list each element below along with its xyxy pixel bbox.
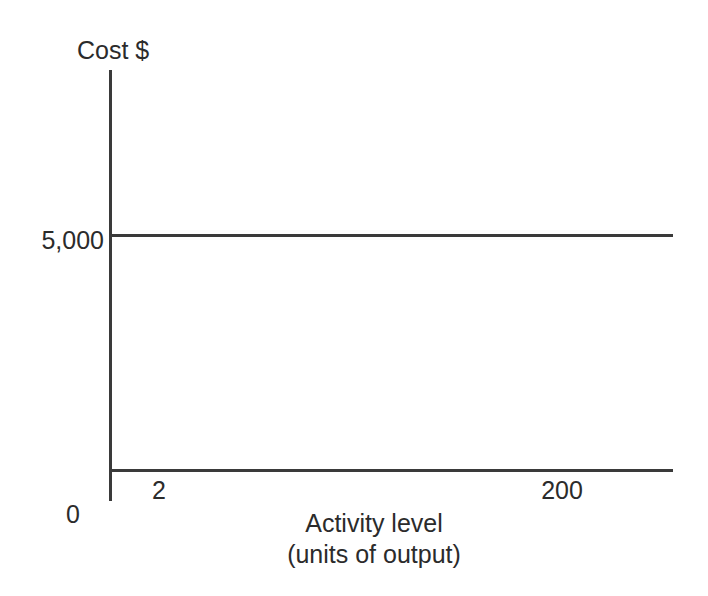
x-tick-label-2: 2: [152, 476, 166, 504]
x-axis-title-line2: (units of output): [40, 539, 708, 570]
y-axis-line: [109, 70, 112, 501]
y-tick-group: 5,000: [0, 226, 104, 254]
chart-canvas: Cost $ 5,000 0 2 200 Activity level (uni…: [0, 0, 708, 596]
x-tick-label-200: 200: [541, 476, 583, 504]
x-axis-title: Activity level (units of output): [0, 508, 708, 570]
fixed-cost-series-line: [109, 234, 673, 237]
x-axis-line: [109, 469, 673, 472]
y-axis-title: Cost $: [77, 36, 149, 64]
y-tick-label-5000: 5,000: [41, 226, 104, 254]
x-axis-title-line1: Activity level: [40, 508, 708, 539]
